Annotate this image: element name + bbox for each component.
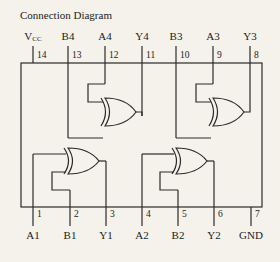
pin-number-2: 2 [74, 209, 79, 219]
pin-label-gnd: GND [239, 229, 263, 241]
pin-label-b4: B4 [62, 30, 75, 42]
pin-number-12: 12 [109, 50, 119, 60]
xor-gate-2 [142, 148, 214, 190]
pin-number-6: 6 [218, 209, 223, 219]
pin-label-a1: A1 [26, 229, 39, 241]
pin-label-vcc: VCC [24, 30, 41, 43]
pin-number-14: 14 [37, 50, 47, 60]
pin-number-4: 4 [146, 209, 151, 219]
pin-label-b2: B2 [172, 229, 185, 241]
pin-label-a4: A4 [98, 30, 111, 42]
pin-label-y4: Y4 [135, 30, 148, 42]
pin-number-13: 13 [72, 50, 82, 60]
pin-number-10: 10 [180, 50, 190, 60]
pin-label-b3: B3 [170, 30, 183, 42]
pin-number-5: 5 [182, 209, 187, 219]
pin-number-3: 3 [110, 209, 115, 219]
pin-label-a3: A3 [206, 30, 219, 42]
xor-gate-1 [33, 148, 106, 190]
pin-label-y3: Y3 [243, 30, 256, 42]
pin-number-9: 9 [217, 50, 222, 60]
pin-label-y2: Y2 [207, 229, 220, 241]
pin-number-1: 1 [37, 209, 42, 219]
xor-gate-4 [68, 84, 142, 138]
pin-number-11: 11 [146, 50, 155, 60]
pin-number-7: 7 [255, 209, 260, 219]
pin-label-a2: A2 [135, 229, 148, 241]
pin-label-b1: B1 [64, 229, 77, 241]
pin-label-y1: Y1 [99, 229, 112, 241]
pin-number-8: 8 [254, 50, 259, 60]
